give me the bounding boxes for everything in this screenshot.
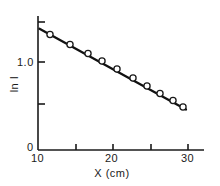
x-axis-tick-label-20: 20 [105,152,118,164]
x-axis-tick-label-30: 30 [181,152,194,164]
data-point-marker [47,31,53,37]
data-point-marker [99,58,105,64]
data-point-marker [130,75,136,81]
data-point-marker [114,66,120,72]
data-point-marker [85,50,91,56]
data-point-marker [67,41,73,47]
data-point-marker [144,83,150,89]
y-axis-title: ln I [8,62,20,106]
data-point-marker [180,104,186,110]
fit-line [40,29,187,110]
figure-container: 1.0 0 10 20 30 ln I X (cm) [0,0,220,186]
data-point-marker [170,97,176,103]
data-point-marker [157,90,163,96]
x-axis-tick-label-10: 10 [31,152,44,164]
x-axis-title: X (cm) [77,167,147,179]
